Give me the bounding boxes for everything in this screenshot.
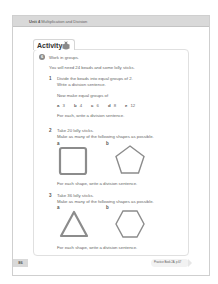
question-1-line-2: Write a division sentence. [57,82,106,87]
option-b: b4 [74,103,91,108]
activity-panel: 6 Work in groups. You will need 24 beads… [33,49,189,256]
activity-number-badge: 6 [39,54,45,60]
option-a: a3 [57,103,74,108]
activity-materials: You will need 24 beads and some lolly st… [49,65,135,70]
option-c: c6 [91,103,108,108]
unit-label: Unit 4 [29,19,40,24]
triangle-shape [58,209,90,239]
question-3-shape-b-label: b [106,205,109,210]
activity-tab: Activity [33,39,75,50]
question-3-line-1: Take 36 lolly sticks. [57,193,94,198]
textbook-page: Unit 4 Multiplication and Division Activ… [12,15,210,276]
question-3-footer: For each shape, write a division sentenc… [57,245,137,250]
question-3-number: 3 [49,193,52,198]
beetle-icon [61,41,71,50]
unit-header: Unit 4 Multiplication and Division [13,16,209,27]
question-3-line-2: Make as many of the following shapes as … [57,199,154,204]
question-2-line-1: Take 20 lolly sticks. [57,128,94,133]
activity-intro: Work in groups. [49,55,79,60]
practice-book-reference: Practice Book 2A, p.67 [151,259,189,267]
square-shape [57,145,89,177]
option-d: d8 [108,103,125,108]
question-2-number: 2 [49,128,52,133]
option-e: e12 [125,103,142,108]
question-1-number: 1 [49,76,52,81]
question-1-line-1: Divide the beads into equal groups of 2. [57,76,133,81]
question-2-shape-b-label: b [106,141,109,146]
group-size-options: a3 b4 c6 d8 e12 [57,103,142,108]
question-1-footer: For each, write a division sentence. [57,113,124,118]
page-number: 86 [13,259,28,267]
pentagon-shape [113,143,147,177]
question-2-line-2: Make as many of the following shapes as … [57,134,154,139]
activity-title: Activity [37,42,62,49]
question-2-footer: For each shape, write a division sentenc… [57,181,137,186]
hexagon-shape [113,208,147,240]
question-1-line-3: Now make equal groups of [57,93,108,98]
unit-title: Multiplication and Division [41,19,87,24]
